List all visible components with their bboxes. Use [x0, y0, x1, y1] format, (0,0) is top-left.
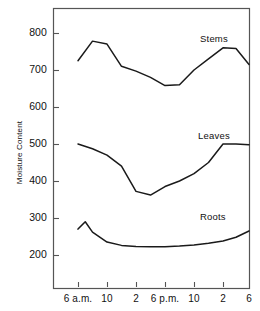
chart-canvas	[0, 0, 260, 311]
series-line-stems	[78, 41, 249, 85]
y-tick-label-700: 700	[21, 63, 47, 75]
x-tick-label-5: 2	[220, 293, 226, 304]
x-tick-label-2: 2	[133, 293, 139, 304]
chart-figure: Moisture Content 200300400500600700800 6…	[0, 0, 260, 311]
series-label-leaves: Leaves	[198, 130, 230, 141]
series-line-roots	[78, 222, 249, 247]
series-label-stems: Stems	[200, 33, 228, 44]
x-tick-label-4: 10	[188, 293, 199, 304]
y-tick-label-200: 200	[21, 248, 47, 260]
y-tick-label-800: 800	[21, 26, 47, 38]
y-tick-label-500: 500	[21, 137, 47, 149]
y-axis-title: Moisture Content	[15, 103, 24, 203]
y-tick-label-300: 300	[21, 211, 47, 223]
series-line-leaves	[78, 144, 249, 195]
x-tick-label-3: 6 p.m.	[151, 293, 179, 304]
series-label-roots: Roots	[200, 211, 226, 222]
x-tick-label-1: 10	[101, 293, 112, 304]
y-tick-label-400: 400	[21, 174, 47, 186]
x-tick-label-6: 6	[246, 293, 252, 304]
y-tick-label-600: 600	[21, 100, 47, 112]
x-tick-label-0: 6 a.m.	[64, 293, 92, 304]
